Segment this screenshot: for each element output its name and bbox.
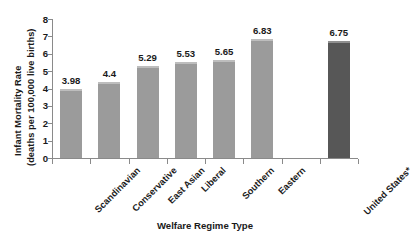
bar-top-highlight	[60, 89, 82, 91]
y-axis-tick-label: 7	[26, 32, 48, 42]
x-axis-category-label: Eastern	[277, 166, 308, 197]
bar-top-highlight	[251, 39, 273, 41]
x-axis-tick-mark	[320, 159, 321, 164]
bar-value-label: 3.98	[51, 76, 91, 86]
y-axis-tick-label: 8	[26, 15, 48, 25]
bar	[60, 89, 82, 158]
y-axis-tick-label: 1	[26, 136, 48, 146]
bar-top-highlight	[137, 66, 159, 68]
y-axis-tick-label: 4	[26, 84, 48, 94]
bar-value-label: 5.65	[204, 47, 244, 57]
x-axis-tick-mark	[205, 159, 206, 164]
x-axis-tick-mark	[167, 159, 168, 164]
bar-top-highlight	[328, 41, 350, 43]
bar-value-label: 6.83	[242, 26, 282, 36]
bar	[213, 60, 235, 158]
y-axis-tick-label: 5	[26, 67, 48, 77]
x-axis-category-label: United States*	[362, 166, 413, 217]
y-axis-title-line-1: Infant Mortality Rate	[13, 66, 23, 156]
bar-top-highlight	[175, 62, 197, 64]
y-axis-tick-label: 0	[26, 154, 48, 164]
x-axis-category-label: Southern	[241, 166, 276, 201]
bar-top-highlight	[98, 82, 120, 84]
x-axis-title: Welfare Regime Type	[52, 220, 358, 231]
bar-value-label: 5.29	[128, 53, 168, 63]
x-axis-tick-mark	[129, 159, 130, 164]
plot-area	[52, 19, 358, 158]
y-axis-tick-label: 2	[26, 119, 48, 129]
y-axis-tick-label: 6	[26, 49, 48, 59]
y-axis-tick-labels: 876543210	[26, 0, 48, 170]
bar-value-label: 6.75	[319, 28, 359, 38]
bar	[175, 62, 197, 158]
x-axis-tick-mark	[358, 159, 359, 164]
bar	[251, 39, 273, 158]
bar	[98, 82, 120, 158]
bar-value-label: 5.53	[166, 49, 206, 59]
bar	[137, 66, 159, 158]
x-axis-tick-mark	[282, 159, 283, 164]
bar-value-label: 4.4	[89, 69, 129, 79]
x-axis-tick-mark	[243, 159, 244, 164]
y-axis-tick-label: 3	[26, 101, 48, 111]
x-axis-tick-mark	[90, 159, 91, 164]
bar	[328, 41, 350, 158]
bar-top-highlight	[213, 60, 235, 62]
x-axis-tick-mark	[52, 159, 53, 164]
